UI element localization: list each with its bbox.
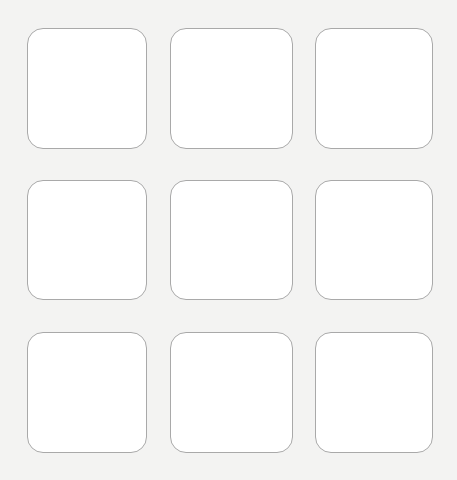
tile-r1-c1[interactable] [27, 28, 147, 149]
tile-r1-c3[interactable] [315, 28, 433, 149]
tile-r2-c2[interactable] [170, 180, 293, 300]
tile-r3-c2[interactable] [170, 332, 293, 453]
tile-r1-c2[interactable] [170, 28, 293, 149]
tile-r3-c3[interactable] [315, 332, 433, 453]
tile-r2-c1[interactable] [27, 180, 147, 300]
tile-r3-c1[interactable] [27, 332, 147, 453]
tile-grid [0, 0, 457, 480]
tile-r2-c3[interactable] [315, 180, 433, 300]
